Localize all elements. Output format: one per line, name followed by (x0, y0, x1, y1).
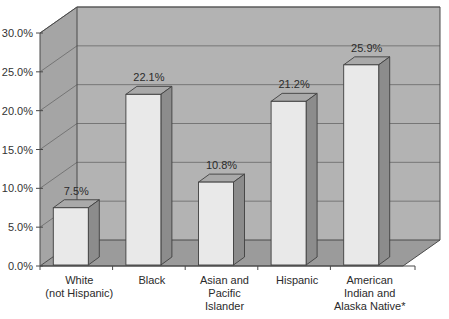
chart-container: 0.0%5.0%10.0%15.0%20.0%25.0%30.0% 25.9%2… (0, 0, 449, 319)
bar-side-face (161, 86, 172, 265)
bar-value-label: 25.9% (351, 42, 382, 54)
y-tick-label: 15.0% (2, 144, 33, 156)
bar-value-label: 22.1% (133, 71, 164, 83)
x-axis-category-labels: White(not Hispanic)BlackAsian andPacific… (45, 274, 406, 312)
category-label-5: AmericanIndian andAlaska Native* (334, 274, 406, 312)
bar-side-face (88, 200, 99, 265)
category-label-line: Indian and (344, 287, 395, 299)
bar-front-face (53, 208, 88, 265)
bar-front-face (199, 182, 234, 265)
bar-3 (199, 174, 245, 265)
x-axis (40, 266, 415, 270)
bar-side-face (306, 93, 317, 265)
y-tick-label: 10.0% (2, 182, 33, 194)
category-label-line: Asian and (200, 274, 249, 286)
category-label-3: Asian andPacificIslander (200, 274, 249, 312)
category-label-2: Black (138, 274, 165, 286)
bar-chart-3d: 0.0%5.0%10.0%15.0%20.0%25.0%30.0% 25.9%2… (0, 0, 449, 319)
bar-front-face (126, 94, 161, 265)
bar-side-face (379, 57, 390, 265)
bar-value-label: 7.5% (64, 185, 89, 197)
y-tick-label: 30.0% (2, 27, 33, 39)
bar-5 (344, 57, 390, 265)
bar-2 (126, 86, 172, 265)
bar-value-label: 10.8% (206, 159, 237, 171)
y-tick-label: 25.0% (2, 66, 33, 78)
category-label-line: (not Hispanic) (45, 287, 113, 299)
category-label-line: Hispanic (276, 274, 319, 286)
category-label-1: White(not Hispanic) (45, 274, 113, 299)
bar-front-face (271, 101, 306, 265)
bar-value-label: 21.2% (278, 78, 309, 90)
y-tick-label: 0.0% (8, 260, 33, 272)
category-label-line: White (65, 274, 93, 286)
category-label-line: Pacific (208, 287, 241, 299)
y-axis-tick-labels: 0.0%5.0%10.0%15.0%20.0%25.0%30.0% (2, 27, 33, 272)
category-label-4: Hispanic (276, 274, 319, 286)
category-label-line: Islander (205, 300, 244, 312)
bar-side-face (234, 174, 245, 265)
y-tick-label: 20.0% (2, 105, 33, 117)
y-tick-label: 5.0% (8, 221, 33, 233)
bar-front-face (344, 65, 379, 265)
bar-4 (271, 93, 317, 265)
category-label-line: American (346, 274, 392, 286)
category-label-line: Black (138, 274, 165, 286)
category-label-line: Alaska Native* (334, 300, 406, 312)
bar-1 (53, 200, 99, 265)
